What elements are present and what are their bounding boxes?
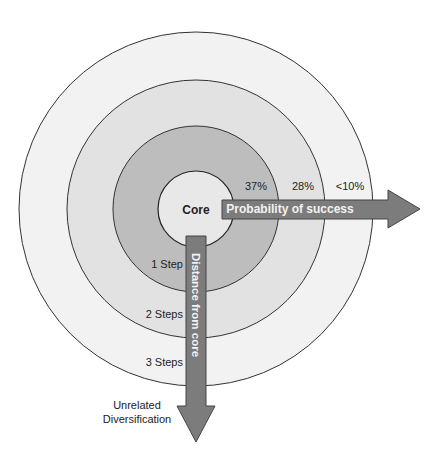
endpoint-label-line2: Diversification bbox=[103, 413, 171, 425]
step-label-2: 2 Steps bbox=[146, 308, 184, 320]
core-label: Core bbox=[182, 203, 210, 217]
probability-arrow-label: Probability of success bbox=[226, 202, 354, 216]
concentric-diversification-diagram: Core 37% 28% <10% Probability of success… bbox=[0, 0, 440, 461]
probability-label-2: 28% bbox=[292, 180, 314, 192]
distance-arrow-label: Distance from core bbox=[190, 253, 202, 357]
probability-label-1: 37% bbox=[245, 180, 267, 192]
step-label-3: 3 Steps bbox=[146, 356, 184, 368]
endpoint-label-line1: Unrelated bbox=[113, 399, 161, 411]
probability-label-3: <10% bbox=[336, 180, 365, 192]
step-label-1: 1 Step bbox=[151, 258, 183, 270]
